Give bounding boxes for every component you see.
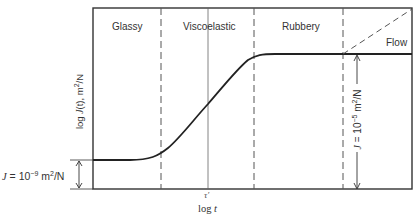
region-label-viscoelastic: Viscoelastic [183,21,236,32]
y-axis-label: log J(t), m2/N [74,52,85,152]
tau-label: τ′ [204,190,209,200]
region-label-rubbery: Rubbery [282,21,320,32]
x-axis-label: log t [198,203,217,214]
region-label-flow: Flow [386,37,407,48]
plot-frame [93,8,412,189]
compliance-curve [93,54,412,160]
glassy-compliance-annotation: J = 10−9 m2/N [2,170,64,182]
rubbery-compliance-annotation: J = 10−5 m2/N [352,60,363,180]
region-label-glassy: Glassy [112,21,143,32]
